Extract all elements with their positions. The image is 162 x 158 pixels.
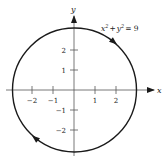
equation-label: x2+y2= 9 [101, 23, 139, 33]
y-tick-label: 1 [62, 67, 66, 75]
x-tick-label: −2 [27, 97, 37, 105]
circle-diagram: −2 −1 1 2 2 1 −1 −2 x y x2+y2= 9 [0, 0, 162, 158]
y-tick-label: −2 [56, 127, 66, 135]
x-axis-label: x [157, 86, 162, 95]
y-tick-label: −1 [56, 107, 66, 115]
x-tick-label: −1 [48, 97, 58, 105]
x-tick-label: 1 [93, 97, 97, 105]
x-tick-label: 2 [114, 97, 118, 105]
y-axis-label: y [70, 5, 76, 14]
y-tick-label: 2 [62, 47, 66, 55]
